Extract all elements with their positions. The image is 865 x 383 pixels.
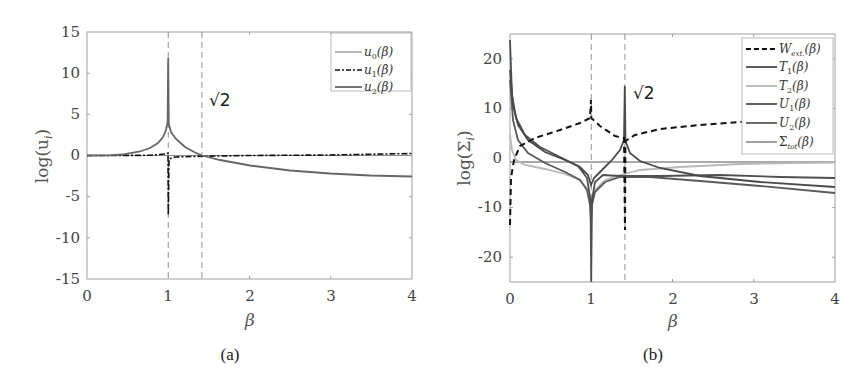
- ytick-a-6: -15: [56, 270, 80, 288]
- ytick-a-1: 10: [61, 64, 80, 82]
- xtick-b-4: 4: [830, 290, 840, 308]
- svg-text:u1(β): u1(β): [364, 63, 393, 79]
- ytick-b-0: 20: [483, 50, 502, 68]
- xtick-b-1: 1: [586, 290, 596, 308]
- xtick-a-4: 4: [407, 287, 417, 305]
- caption-a: (a): [221, 345, 240, 364]
- ytick-a-0: 15: [61, 23, 80, 41]
- svg-text:U2(β): U2(β): [779, 116, 811, 132]
- ytick-b-3: -10: [478, 198, 502, 216]
- chart-b: 20 10 0 -10 -20 0 1 2 3 4 β log(Σi) (b) …: [454, 34, 840, 364]
- xtick-b-0: 0: [505, 290, 515, 308]
- svg-text:Σtot(β): Σtot(β): [779, 135, 814, 151]
- xlabel-a: β: [244, 310, 255, 330]
- legend-b: Wext.(β) T1(β) T2(β) U1(β) U2(β) Σtot(β): [742, 38, 833, 154]
- ylabel-a: log(ui): [32, 129, 55, 183]
- xtick-a-3: 3: [326, 287, 336, 305]
- caption-b: (b): [643, 345, 663, 364]
- ytick-b-2: 0: [492, 149, 502, 167]
- xtick-b-3: 3: [749, 290, 759, 308]
- ytick-a-4: -5: [65, 187, 80, 205]
- legend-a: u0(β) u1(β) u2(β): [331, 33, 411, 96]
- xtick-a-0: 0: [82, 287, 92, 305]
- svg-text:u2(β): u2(β): [364, 80, 393, 96]
- annotation-sqrt2-b: √2: [633, 83, 655, 103]
- svg-text:u0(β): u0(β): [364, 45, 393, 61]
- xtick-a-2: 2: [245, 287, 255, 305]
- ytick-a-3: 0: [70, 146, 80, 164]
- ylabel-b: log(Σi): [454, 130, 477, 185]
- ytick-b-1: 10: [483, 99, 502, 117]
- ytick-a-5: -10: [56, 229, 80, 247]
- xlabel-b: β: [667, 311, 678, 331]
- ytick-a-2: 5: [70, 105, 80, 123]
- svg-text:U1(β): U1(β): [779, 97, 811, 113]
- svg-text:T1(β): T1(β): [779, 60, 809, 76]
- xtick-a-1: 1: [163, 287, 173, 305]
- annotation-sqrt2-a: √2: [209, 90, 231, 110]
- xtick-b-2: 2: [668, 290, 678, 308]
- figure: 15 10 5 0 -5 -10 -15 0 1 2 3 4 β log(ui)…: [0, 0, 865, 383]
- svg-text:T2(β): T2(β): [779, 79, 809, 95]
- ytick-b-4: -20: [478, 248, 502, 266]
- chart-a: 15 10 5 0 -5 -10 -15 0 1 2 3 4 β log(ui)…: [32, 23, 417, 364]
